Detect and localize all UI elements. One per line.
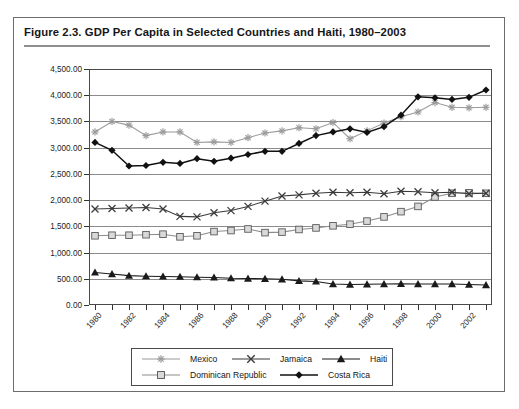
x-axis-tick: [214, 305, 215, 310]
x-axis-tick-label: 1996: [351, 311, 375, 336]
x-axis-tick-label: 1988: [215, 311, 239, 336]
x-axis-tick: [282, 305, 283, 310]
legend-marker-dominican-republic: [158, 372, 165, 379]
legend-label-costa-rica: Costa Rica: [328, 370, 370, 380]
x-axis-tick-label: 1984: [147, 311, 171, 336]
x-axis-tick-label: 1990: [249, 311, 273, 336]
x-axis-tick: [418, 305, 419, 310]
x-axis-tick-label: 1994: [317, 311, 341, 336]
x-axis-tick: [265, 305, 266, 310]
series-layer: [89, 69, 492, 305]
x-axis-tick: [486, 305, 487, 310]
x-axis-tick-label: 1980: [79, 311, 103, 336]
x-axis-tick-label: 1998: [385, 311, 409, 336]
y-axis-tick-label: 500.00: [20, 274, 82, 283]
series-mexico: [91, 99, 489, 146]
x-axis-tick-label: 1992: [283, 311, 307, 336]
x-axis-tick: [180, 305, 181, 310]
y-axis-tick-label: 1,000.00: [20, 248, 82, 257]
x-axis-tick: [129, 305, 130, 310]
legend-marker-costa-rica: [295, 371, 303, 379]
y-axis-tick-label: 3,000.00: [20, 143, 82, 152]
x-axis-tick: [197, 305, 198, 310]
series-jamaica: [92, 188, 490, 221]
x-axis-tick: [112, 305, 113, 310]
series-haiti: [91, 268, 490, 288]
x-axis-tick-label: 2002: [453, 311, 477, 336]
y-axis-tick-label: 0.00: [20, 301, 82, 310]
y-axis-tick-label: 2,000.00: [20, 196, 82, 205]
chart-legend: MexicoJamaicaHaitiDominican RepublicCost…: [131, 348, 393, 386]
x-axis-tick: [299, 305, 300, 310]
x-axis-tick-label: 2000: [419, 311, 443, 336]
legend-label-dominican-republic: Dominican Republic: [190, 370, 266, 380]
x-axis-tick: [384, 305, 385, 310]
y-axis-tick-label: 4,000.00: [20, 91, 82, 100]
x-axis-tick: [248, 305, 249, 310]
x-axis-tick: [231, 305, 232, 310]
x-axis-tick: [469, 305, 470, 310]
x-axis-tick: [316, 305, 317, 310]
x-axis-tick: [146, 305, 147, 310]
y-axis-tick: [84, 305, 89, 306]
x-axis-tick: [435, 305, 436, 310]
x-axis-tick: [163, 305, 164, 310]
series-dominican-republic: [92, 189, 490, 240]
legend-label-haiti: Haiti: [370, 354, 387, 364]
x-axis-tick-label: 1986: [181, 311, 205, 336]
legend-marker-mexico: [157, 355, 165, 363]
x-axis-tick: [367, 305, 368, 310]
x-axis-tick: [95, 305, 96, 310]
x-axis-tick: [333, 305, 334, 310]
y-axis-tick-label: 3,500.00: [20, 117, 82, 126]
legend-label-jamaica: Jamaica: [280, 354, 312, 364]
y-axis-tick-label: 2,500.00: [20, 169, 82, 178]
x-axis-tick: [401, 305, 402, 310]
series-costa-rica: [91, 86, 489, 169]
legend-label-mexico: Mexico: [190, 354, 217, 364]
y-axis-tick-label: 1,500.00: [20, 222, 82, 231]
y-axis-tick-label: 4,500.00: [20, 65, 82, 74]
x-axis-tick: [350, 305, 351, 310]
x-axis-tick-label: 1982: [113, 311, 137, 336]
x-axis-tick: [452, 305, 453, 310]
